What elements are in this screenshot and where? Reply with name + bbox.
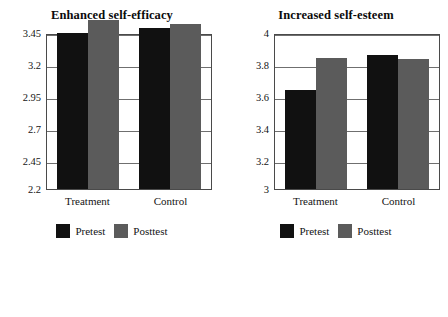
y-tick-label: 2.45	[23, 157, 41, 167]
y-tick-label: 2.2	[28, 185, 41, 195]
caption-right-clipped	[224, 303, 448, 317]
chart-panel-self-esteem: Increased self-esteem 4 3.8 3.6 3.4 3.2 …	[224, 0, 448, 288]
figure-container: Enhanced self-efficacy 3.45 3.2 2.95 2.7…	[0, 0, 448, 317]
plot-frame-right	[274, 34, 440, 190]
bar-treatment-posttest	[316, 58, 347, 189]
bar-treatment-posttest	[88, 20, 119, 189]
plot-frame-left	[46, 34, 212, 190]
x-tick-label: Treatment	[46, 192, 129, 210]
legend-item-posttest: Posttest	[114, 224, 167, 238]
x-axis-labels-left: Treatment Control	[46, 192, 212, 210]
legend-item-pretest: Pretest	[56, 224, 105, 238]
plot-area-right: 4 3.8 3.6 3.4 3.2 3	[238, 24, 442, 220]
bar-control-posttest	[170, 24, 201, 189]
bar-group-treatment	[47, 35, 129, 189]
chart-title-right: Increased self-esteem	[224, 6, 448, 24]
legend-item-pretest: Pretest	[280, 224, 329, 238]
y-tick-label: 2.95	[23, 93, 41, 103]
legend-label: Pretest	[299, 225, 329, 237]
bar-treatment-pretest	[57, 33, 88, 189]
chart-panel-self-efficacy: Enhanced self-efficacy 3.45 3.2 2.95 2.7…	[0, 0, 224, 288]
y-tick-label: 4	[264, 29, 269, 39]
y-axis-labels-right: 4 3.8 3.6 3.4 3.2 3	[238, 24, 272, 220]
bar-series-left	[47, 35, 211, 189]
bar-control-pretest	[367, 55, 398, 189]
y-tick-label: 3.2	[28, 61, 41, 71]
bar-group-treatment	[275, 35, 357, 189]
legend-swatch-posttest-icon	[114, 224, 128, 238]
y-tick-label: 2.7	[28, 125, 41, 135]
bar-treatment-pretest	[285, 90, 316, 189]
bar-control-pretest	[139, 28, 170, 189]
bar-group-control	[129, 35, 211, 189]
plot-area-left: 3.45 3.2 2.95 2.7 2.45 2.2	[10, 24, 214, 220]
legend-label: Posttest	[133, 225, 167, 237]
caption-left-clipped	[0, 303, 224, 317]
y-tick-label: 3.8	[256, 61, 269, 71]
y-tick-label: 3	[264, 185, 269, 195]
y-tick-label: 3.45	[23, 29, 41, 39]
x-axis-labels-right: Treatment Control	[274, 192, 440, 210]
x-tick-label: Control	[129, 192, 212, 210]
y-axis-labels-left: 3.45 3.2 2.95 2.7 2.45 2.2	[10, 24, 44, 220]
x-tick-label: Treatment	[274, 192, 357, 210]
legend-swatch-posttest-icon	[338, 224, 352, 238]
y-tick-label: 3.4	[256, 125, 269, 135]
bar-group-control	[357, 35, 439, 189]
legend-left: Pretest Posttest	[0, 224, 224, 238]
legend-right: Pretest Posttest	[224, 224, 448, 238]
legend-swatch-pretest-icon	[56, 224, 70, 238]
bar-control-posttest	[398, 59, 429, 189]
y-tick-label: 3.2	[256, 157, 269, 167]
bar-series-right	[275, 35, 439, 189]
x-tick-label: Control	[357, 192, 440, 210]
legend-swatch-pretest-icon	[280, 224, 294, 238]
legend-item-posttest: Posttest	[338, 224, 391, 238]
legend-label: Pretest	[75, 225, 105, 237]
legend-label: Posttest	[357, 225, 391, 237]
y-tick-label: 3.6	[256, 93, 269, 103]
